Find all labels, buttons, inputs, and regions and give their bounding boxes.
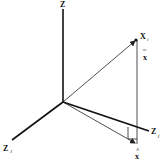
zj-axis-label: Z <box>151 127 156 136</box>
z1-axis <box>12 102 63 140</box>
xi-subscript: i <box>147 37 149 42</box>
projection-diagram: Z Z 1 Z j X i ~ x ^ x <box>0 0 167 163</box>
zj-axis-subscript: j <box>157 133 160 138</box>
xi-vector <box>63 41 135 102</box>
residual-label: x <box>143 53 147 62</box>
right-angle-marker <box>128 127 137 139</box>
z1-axis-label: Z <box>3 144 8 153</box>
xi-point <box>134 38 137 41</box>
z1-axis-subscript: 1 <box>10 149 13 154</box>
projection-label: x <box>135 152 139 161</box>
z-axis-label: Z <box>60 0 65 9</box>
xi-label: X <box>140 32 146 41</box>
